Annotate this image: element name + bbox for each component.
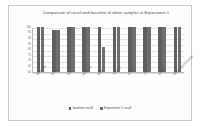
legend-label: baseline recall [73,107,93,110]
bars-layer [33,28,184,72]
y-axis-tick: 75 [18,55,31,58]
y-axis-tick: 90 [18,38,31,41]
y-axis-tick: 65 [18,66,31,69]
x-axis-tick: THF [143,70,150,77]
bar [128,27,132,72]
bar [82,27,86,72]
y-axis-tick: 85 [18,44,31,47]
bar [143,27,147,72]
x-axis-tick: IPA [67,71,73,77]
bar [71,27,75,72]
chart-title: Comparison of recall and baseline of whi… [31,10,181,15]
legend-swatch [69,107,72,110]
bar [147,27,151,72]
chart-legend: baseline recallExperiment 1 recall [9,107,191,110]
bar [174,27,178,72]
y-axis-tick-labels: 1009590858075706560 [18,26,31,75]
y-axis-tick: 80 [18,49,31,52]
bar-group [48,28,63,72]
bar [52,30,56,72]
y-axis-tick: 60 [18,72,31,75]
bar [98,27,102,72]
bar-group [79,28,94,72]
legend-label: Experiment 1 recall [104,107,131,110]
bar-group [94,28,109,72]
chart-frame: Comparison of recall and baseline of whi… [8,5,192,121]
legend-item: baseline recall [69,107,93,110]
x-axis-tick-labels: MethanolEthanolIPAAcetoneMEKTolueneXylen… [32,74,184,108]
legend-item: Experiment 1 recall [100,107,131,110]
bar [162,27,166,72]
y-axis-tick: 70 [18,60,31,63]
y-axis-tick: 95 [18,32,31,35]
bar [132,27,136,72]
bar [113,27,117,72]
bar-group [139,28,154,72]
bar-group [155,28,170,72]
bar [158,27,162,72]
bar-group [124,28,139,72]
bar [37,27,41,72]
legend-swatch [100,107,103,110]
plot-area [32,28,184,73]
bar-group [109,28,124,72]
bar [67,27,71,72]
y-axis-tick: 100 [18,27,31,30]
bar-group [63,28,78,72]
